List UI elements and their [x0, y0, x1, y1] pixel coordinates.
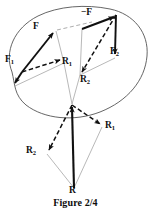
label-R1-lower-base: R: [105, 120, 112, 130]
label-R-resultant: R: [69, 186, 76, 196]
label-force-F1: F1: [5, 55, 14, 65]
label-R1-upper-subscript: 1: [69, 60, 72, 67]
force-diagram-svg: [0, 0, 151, 215]
label-R1-lower-subscript: 1: [112, 124, 115, 131]
transfer-lines: [64, 63, 80, 104]
label-force-F1-subscript: 1: [11, 58, 14, 65]
figure-container: F −F F1 F2 R1 R2 R1 R2 R Figure 2/4: [0, 0, 151, 215]
label-force-F1-base: F: [5, 54, 11, 64]
label-R2-lower-subscript: 2: [33, 149, 36, 156]
label-R2-upper-subscript: 2: [87, 78, 90, 85]
label-force-F2: F2: [110, 47, 119, 57]
label-force-F: F: [33, 22, 39, 32]
vector-R1-lower: [72, 105, 100, 124]
figure-caption: Figure 2/4: [0, 197, 151, 208]
vector-R2-lower: [49, 105, 72, 150]
label-R1-upper-base: R: [62, 56, 69, 66]
vector-F1: [15, 72, 22, 83]
label-force-F2-subscript: 2: [116, 50, 119, 57]
vector-R-resultant: [72, 107, 74, 188]
label-R2-lower: R2: [26, 146, 36, 156]
label-R2-upper: R2: [80, 75, 90, 85]
label-R2-upper-base: R: [80, 74, 87, 84]
left-parallelogram-sides: [15, 31, 64, 86]
couple-connector-line: [57, 22, 92, 30]
vector-negative-F: [82, 17, 114, 29]
label-R1-upper: R1: [62, 57, 72, 67]
label-force-negative-F: −F: [81, 8, 92, 18]
label-R1-lower: R1: [105, 121, 115, 131]
label-force-F2-base: F: [110, 46, 116, 56]
label-R2-lower-base: R: [26, 145, 33, 155]
vector-F: [22, 33, 53, 72]
